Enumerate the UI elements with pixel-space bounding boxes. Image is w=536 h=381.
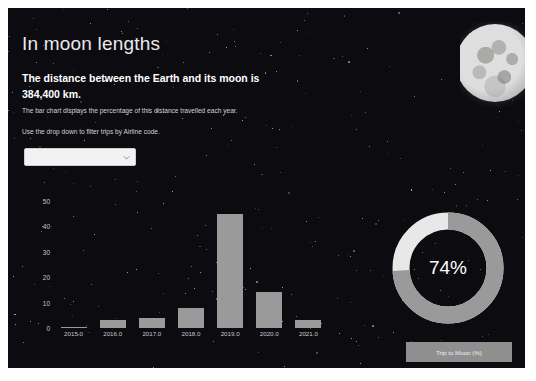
donut-value-label: 74% — [386, 206, 510, 330]
airline-code-dropdown[interactable] — [24, 148, 136, 166]
x-axis-tick: 2017.0 — [132, 330, 171, 346]
y-axis-tick: 50 — [43, 198, 50, 205]
bar-plot-area — [54, 196, 328, 328]
bar-slot — [289, 196, 328, 328]
chart-bar[interactable] — [295, 320, 321, 328]
x-axis-tick: 2019.0 — [211, 330, 250, 346]
dark-panel: In moon lengths The distance between the… — [8, 8, 525, 368]
lede-text: The distance between the Earth and its m… — [22, 70, 292, 102]
description-line-1: The bar chart displays the percentage of… — [22, 107, 238, 114]
x-axis-tick: 2018.0 — [171, 330, 210, 346]
chart-bar[interactable] — [139, 318, 165, 328]
bar-slot — [211, 196, 250, 328]
bar-slot — [132, 196, 171, 328]
x-axis-tick: 2016.0 — [93, 330, 132, 346]
chart-bar[interactable] — [100, 320, 126, 328]
y-axis-tick: 20 — [43, 274, 50, 281]
full-moon-icon — [460, 24, 525, 102]
chevron-down-icon — [122, 153, 131, 162]
y-axis-tick: 40 — [43, 223, 50, 230]
y-axis-tick: 30 — [43, 248, 50, 255]
x-axis-tick: 2020.0 — [250, 330, 289, 346]
bar-slot — [54, 196, 93, 328]
y-axis-tick: 0 — [46, 325, 50, 332]
moon-image — [460, 22, 525, 108]
x-axis: 2015.02016.02017.02018.02019.02020.02021… — [54, 330, 328, 346]
chart-bar[interactable] — [256, 292, 282, 328]
x-axis-tick: 2021.0 — [289, 330, 328, 346]
dashboard-page: In moon lengths The distance between the… — [0, 0, 536, 381]
donut-chart: 74% — [386, 206, 510, 330]
x-axis-tick: 2015.0 — [54, 330, 93, 346]
y-axis: 01020304050 — [28, 196, 54, 328]
bar-slot — [250, 196, 289, 328]
chart-bar[interactable] — [178, 308, 204, 328]
bar-chart: 01020304050 2015.02016.02017.02018.02019… — [28, 196, 328, 356]
description-line-2: Use the drop down to filter trips by Air… — [22, 128, 160, 135]
page-title: In moon lengths — [22, 33, 160, 55]
bar-slot — [171, 196, 210, 328]
chart-bar[interactable] — [61, 327, 87, 329]
y-axis-tick: 10 — [43, 299, 50, 306]
legend-button[interactable]: Trip to Moon (%) — [406, 342, 512, 362]
legend-label: Trip to Moon (%) — [436, 349, 482, 356]
chart-bar[interactable] — [217, 214, 243, 328]
bar-slot — [93, 196, 132, 328]
